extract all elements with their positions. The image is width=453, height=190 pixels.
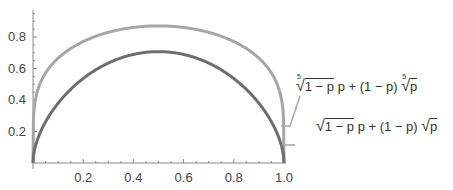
x-tick-label: 0.6 — [175, 170, 193, 185]
y-tick-label: 0.8 — [8, 29, 26, 44]
y-tick-label: 0.2 — [8, 124, 26, 139]
legend-series-1: 5√1 − p p + (1 − p) 5√p — [296, 77, 417, 95]
legend-middle: p + (1 − p) — [334, 79, 401, 94]
axes: 0.20.40.60.81.00.20.40.60.8 — [8, 10, 293, 185]
y-tick-label: 0.6 — [8, 61, 26, 76]
radicand: p — [410, 78, 417, 94]
legend-series-2: √1 − p p + (1 − p) √p — [316, 117, 437, 135]
root-index: 5 — [297, 73, 301, 80]
series-line — [33, 52, 284, 163]
x-tick-label: 0.4 — [124, 170, 142, 185]
y-tick-label: 0.4 — [8, 92, 26, 107]
chart-canvas: 0.20.40.60.81.00.20.40.60.8 — [0, 0, 453, 190]
legend-middle: p + (1 − p) — [354, 119, 421, 134]
radicand: 1 − p — [325, 118, 354, 134]
root-index: 5 — [402, 73, 406, 80]
radicand: p — [430, 118, 437, 134]
x-tick-label: 0.8 — [225, 170, 243, 185]
curves — [33, 26, 300, 163]
radicand: 1 − p — [305, 78, 334, 94]
x-tick-label: 1.0 — [275, 170, 293, 185]
x-tick-label: 0.2 — [74, 170, 92, 185]
series-line — [33, 26, 284, 163]
